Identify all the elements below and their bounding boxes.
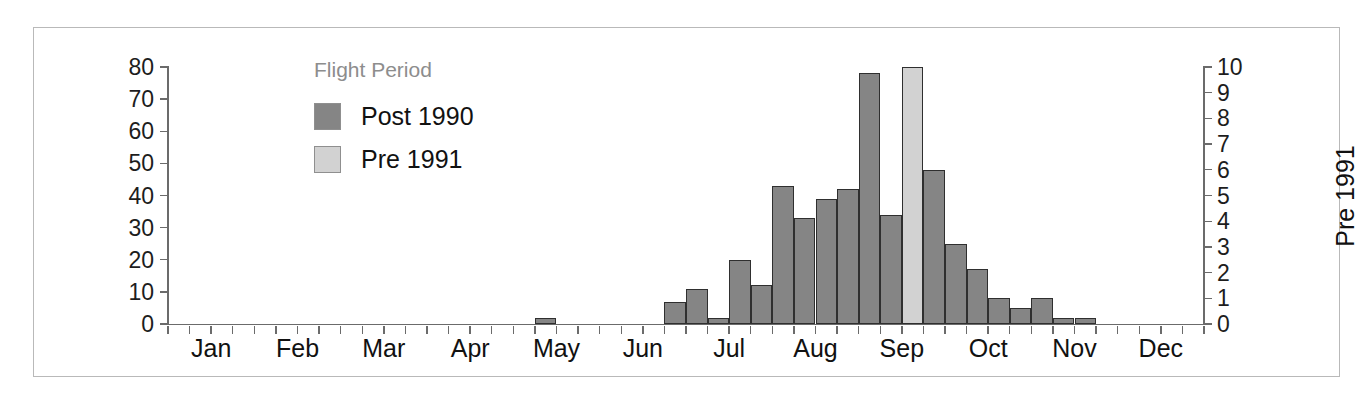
chart-bar <box>1075 67 1097 324</box>
bar-segment-post-1990 <box>1031 298 1053 324</box>
chart-screenshot: Post 1990 Pre 1991 01020304050607080 012… <box>0 0 1364 404</box>
x-axis-month-label: Aug <box>793 334 837 363</box>
x-tick-mark <box>599 326 600 334</box>
bar-segment-post-1990 <box>1075 318 1097 324</box>
bar-segment-post-1990 <box>708 318 730 324</box>
legend-items: Post 1990Pre 1991 <box>314 102 474 174</box>
chart-bar <box>859 67 881 324</box>
chart-bar <box>1053 67 1075 324</box>
x-tick-mark <box>901 326 902 334</box>
x-tick-mark <box>1203 326 1204 334</box>
left-tick-label: 40 <box>128 184 154 207</box>
right-tick-mark <box>1205 118 1212 119</box>
bar-segment-pre-1991 <box>902 67 924 324</box>
left-tick-mark <box>160 291 167 292</box>
x-tick-mark <box>1074 326 1075 334</box>
chart-bar <box>902 67 924 324</box>
x-tick-mark <box>1052 326 1053 334</box>
x-tick-mark <box>491 326 492 334</box>
x-tick-mark <box>167 326 168 334</box>
left-tick-label: 20 <box>128 248 154 271</box>
chart-bar <box>708 67 730 324</box>
x-axis-month-label: Oct <box>969 334 1008 363</box>
chart-bar <box>772 67 794 324</box>
bar-segment-post-1990 <box>967 269 989 324</box>
x-tick-mark <box>254 326 255 334</box>
left-tick-mark <box>160 131 167 132</box>
x-tick-mark <box>836 326 837 334</box>
bar-segment-post-1990 <box>816 199 838 324</box>
chart-bar <box>535 67 557 324</box>
x-tick-mark <box>1095 326 1096 334</box>
right-tick-mark <box>1205 66 1212 67</box>
left-tick-label: 10 <box>128 280 154 303</box>
x-tick-mark <box>577 326 578 334</box>
x-tick-mark <box>966 326 967 334</box>
bar-segment-post-1990 <box>923 170 945 324</box>
chart-bar <box>686 67 708 324</box>
left-tick-mark <box>160 195 167 196</box>
x-tick-mark <box>642 326 643 334</box>
right-tick-label: 5 <box>1217 184 1230 207</box>
x-tick-mark <box>469 326 470 334</box>
x-tick-mark <box>923 326 924 334</box>
x-tick-mark <box>232 326 233 334</box>
right-tick-mark <box>1205 195 1212 196</box>
right-tick-label: 10 <box>1217 56 1243 79</box>
bar-segment-post-1990 <box>535 318 557 324</box>
right-tick-mark <box>1205 169 1212 170</box>
chart-bar <box>1010 67 1032 324</box>
right-axis-title: Pre 1991 <box>1331 145 1360 246</box>
left-tick-label: 60 <box>128 120 154 143</box>
chart-bar <box>751 67 773 324</box>
right-tick-label: 2 <box>1217 261 1230 284</box>
x-tick-mark <box>750 326 751 334</box>
bar-segment-post-1990 <box>772 186 794 324</box>
legend-item[interactable]: Post 1990 <box>314 102 474 131</box>
x-tick-mark <box>362 326 363 334</box>
legend-swatch-icon <box>314 103 341 130</box>
legend-item[interactable]: Pre 1991 <box>314 145 474 174</box>
left-tick-mark <box>160 323 167 324</box>
x-axis-month-label: Jul <box>713 334 745 363</box>
right-tick-label: 0 <box>1217 313 1230 336</box>
x-tick-mark <box>664 326 665 334</box>
x-axis-month-label: Dec <box>1139 334 1183 363</box>
x-tick-mark <box>275 326 276 334</box>
x-tick-mark <box>534 326 535 334</box>
bar-segment-post-1990 <box>880 215 902 324</box>
x-axis-month-label: Apr <box>451 334 490 363</box>
bar-segment-post-1990 <box>794 218 816 324</box>
right-tick-label: 4 <box>1217 210 1230 233</box>
x-tick-mark <box>1117 326 1118 334</box>
right-tick-label: 7 <box>1217 133 1230 156</box>
x-tick-mark <box>448 326 449 334</box>
right-tick-mark <box>1205 246 1212 247</box>
bar-segment-post-1990 <box>729 260 751 324</box>
x-tick-mark <box>815 326 816 334</box>
x-tick-mark <box>340 326 341 334</box>
x-tick-mark <box>728 326 729 334</box>
x-tick-mark <box>944 326 945 334</box>
bar-segment-post-1990 <box>686 289 708 324</box>
x-tick-mark <box>707 326 708 334</box>
bar-segment-post-1990 <box>945 244 967 324</box>
x-tick-mark <box>987 326 988 334</box>
left-tick-label: 50 <box>128 152 154 175</box>
x-tick-mark <box>426 326 427 334</box>
left-tick-label: 80 <box>128 56 154 79</box>
x-tick-mark <box>383 326 384 334</box>
x-tick-mark <box>405 326 406 334</box>
right-tick-mark <box>1205 143 1212 144</box>
x-tick-mark <box>556 326 557 334</box>
bar-segment-post-1990 <box>859 73 881 324</box>
x-tick-mark <box>858 326 859 334</box>
x-tick-mark <box>621 326 622 334</box>
bar-segment-post-1990 <box>1053 318 1075 324</box>
chart-bar <box>816 67 838 324</box>
x-tick-mark <box>1031 326 1032 334</box>
right-tick-label: 1 <box>1217 287 1230 310</box>
x-tick-mark <box>210 326 211 334</box>
left-tick-mark <box>160 227 167 228</box>
right-tick-label: 6 <box>1217 158 1230 181</box>
